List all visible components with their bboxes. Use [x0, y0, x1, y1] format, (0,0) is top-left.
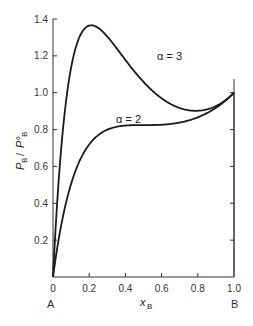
y-tick-label: 1.0: [34, 87, 48, 98]
curve-label-alpha-2: α = 2: [116, 113, 141, 125]
x-axis-label: x B: [139, 296, 152, 311]
x-tick-label: 0.6: [155, 283, 169, 294]
x-tick-label: 0: [50, 283, 56, 294]
y-axis-label: P B / P° B: [14, 132, 29, 170]
plot-frame: [53, 19, 234, 277]
svg-text:B: B: [20, 132, 29, 137]
curve-alpha-2: [53, 93, 234, 277]
end-label-a: A: [47, 298, 55, 310]
y-tick-label: 0.6: [34, 161, 48, 172]
y-tick-label: 1.4: [34, 14, 48, 25]
y-tick-label: 1.2: [34, 50, 48, 61]
curve-alpha-3: [53, 25, 234, 277]
svg-text:B: B: [20, 158, 29, 163]
y-tick-label: 0.8: [34, 124, 48, 135]
x-tick-label: 0.4: [118, 283, 132, 294]
curves: [53, 25, 234, 277]
svg-text:B: B: [147, 302, 152, 311]
svg-text:x: x: [139, 296, 146, 308]
x-tick-label: 0.2: [82, 283, 96, 294]
chart-figure: 0.20.40.60.81.01.21.4 00.20.40.60.81.0 α…: [0, 0, 253, 326]
end-label-b: B: [231, 298, 238, 310]
x-tick-label: 0.8: [191, 283, 205, 294]
y-tick-label: 0.4: [34, 198, 48, 209]
x-axis-ticks: 00.20.40.60.81.0: [50, 273, 241, 294]
svg-text:/: /: [14, 152, 26, 156]
curve-label-alpha-3: α = 3: [157, 50, 182, 62]
y-tick-label: 0.2: [34, 235, 48, 246]
x-tick-label: 1.0: [227, 283, 241, 294]
